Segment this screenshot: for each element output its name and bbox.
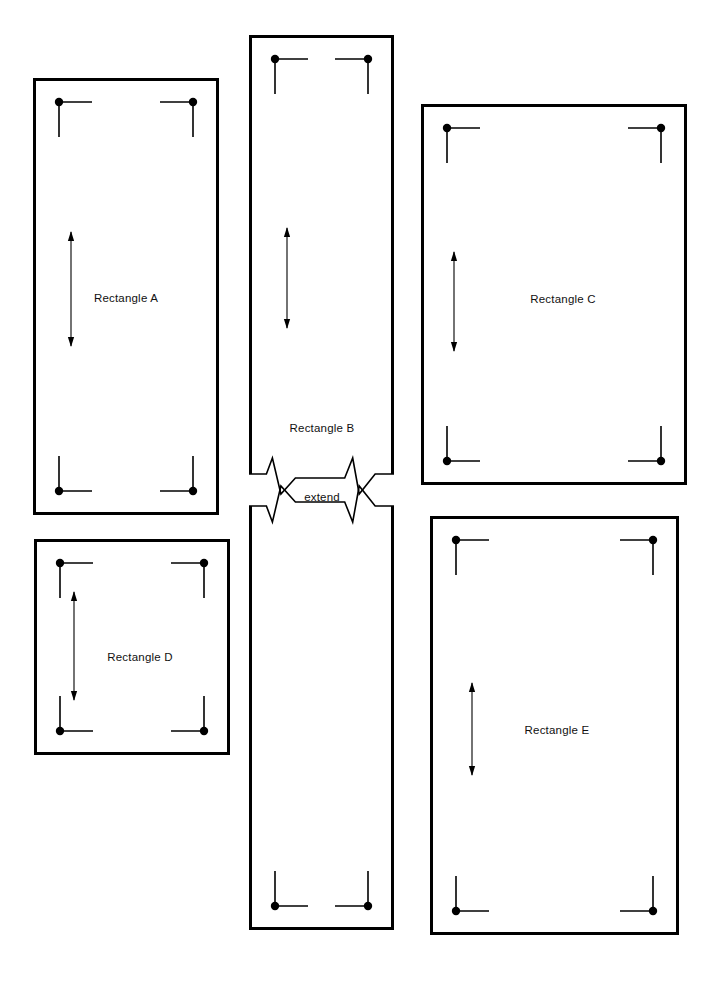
corner-bracket-icon-a-bottom-right (155, 451, 198, 496)
corner-bracket-icon-a-top-left (54, 97, 97, 142)
rectangle-label-e: Rectangle E (525, 724, 590, 736)
double-headed-arrow-icon-c (446, 244, 462, 359)
rectangle-label-c: Rectangle C (530, 293, 595, 305)
double-headed-arrow-icon-b (279, 220, 295, 336)
corner-bracket-icon-b-top-right (330, 54, 373, 99)
corner-bracket-icon-c-top-left (442, 123, 485, 168)
double-headed-arrow-icon-d (66, 584, 82, 708)
corner-bracket-icon-e-bottom-left (451, 871, 494, 916)
diagram-canvas: Rectangle AextendRectangle BRectangle CR… (0, 0, 718, 984)
break-label-b: extend (304, 491, 340, 503)
corner-bracket-icon-d-bottom-right (166, 691, 209, 736)
rectangle-b-upper-body[interactable] (249, 35, 394, 474)
corner-bracket-icon-a-bottom-left (54, 451, 97, 496)
zigzag-break-icon (249, 456, 394, 524)
rectangle-label-b: Rectangle B (290, 422, 355, 434)
corner-bracket-icon-d-top-right (166, 558, 209, 603)
corner-bracket-icon-c-top-right (623, 123, 666, 168)
corner-bracket-icon-b-bottom-right (330, 866, 373, 911)
corner-bracket-icon-b-bottom-left (270, 866, 313, 911)
rectangle-label-d: Rectangle D (107, 651, 172, 663)
double-headed-arrow-icon-e (464, 675, 480, 783)
corner-bracket-icon-a-top-right (155, 97, 198, 142)
corner-bracket-icon-b-top-left (270, 54, 313, 99)
corner-bracket-icon-e-bottom-right (615, 871, 658, 916)
rectangle-label-a: Rectangle A (94, 292, 158, 304)
corner-bracket-icon-e-top-left (451, 535, 494, 580)
corner-bracket-icon-c-bottom-right (623, 421, 666, 466)
corner-bracket-icon-c-bottom-left (442, 421, 485, 466)
double-headed-arrow-icon-a (63, 224, 79, 354)
corner-bracket-icon-e-top-right (615, 535, 658, 580)
